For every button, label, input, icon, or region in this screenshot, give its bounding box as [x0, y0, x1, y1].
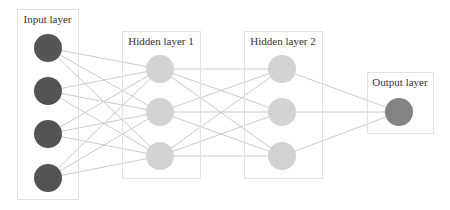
- input-node-2: [34, 77, 62, 105]
- edge-input-2-to-hidden1-0: [48, 69, 160, 134]
- neuron-nodes: [34, 34, 413, 192]
- hidden1-node-3: [146, 142, 174, 170]
- layer-boxes: [18, 10, 434, 200]
- output-node-1: [385, 98, 413, 126]
- hidden1-layer-label: Hidden layer 1: [128, 35, 193, 47]
- edge-input-3-to-hidden1-1: [48, 112, 160, 178]
- edge-input-0-to-hidden1-0: [48, 48, 160, 69]
- neural-network-diagram: Input layerHidden layer 1Hidden layer 2O…: [0, 0, 450, 210]
- connection-edges: [48, 48, 399, 178]
- edge-input-3-to-hidden1-0: [48, 69, 160, 178]
- input-layer-label: Input layer: [24, 13, 72, 25]
- hidden1-node-2: [146, 98, 174, 126]
- hidden2-node-1: [268, 55, 296, 83]
- hidden2-layer-label: Hidden layer 2: [250, 35, 315, 47]
- input-node-1: [34, 34, 62, 62]
- hidden2-node-3: [268, 142, 296, 170]
- edge-input-3-to-hidden1-2: [48, 156, 160, 178]
- edge-input-1-to-hidden1-0: [48, 69, 160, 91]
- input-node-4: [34, 164, 62, 192]
- input-node-3: [34, 120, 62, 148]
- hidden2-node-2: [268, 98, 296, 126]
- output-layer-label: Output layer: [372, 76, 428, 88]
- hidden1-node-1: [146, 55, 174, 83]
